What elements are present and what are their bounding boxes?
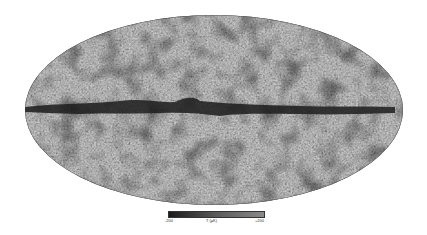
colorbar-unit-label: T (μK) [206,218,217,223]
colorbar-min-label: -200 [165,218,173,223]
sky-map [0,0,427,210]
colorbar [168,211,265,218]
colorbar-max-label: +200 [255,218,264,223]
mollweide-map-graphic [0,0,427,210]
